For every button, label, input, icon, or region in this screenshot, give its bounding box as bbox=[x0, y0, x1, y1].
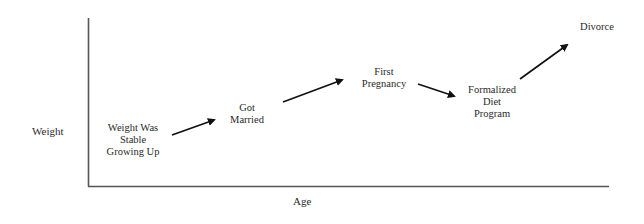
diagram-graphics bbox=[0, 0, 644, 224]
event-label-married: Got Married bbox=[222, 102, 272, 126]
diagram-canvas: Weight Age Weight Was Stable Growing Up … bbox=[0, 0, 644, 224]
event-label-pregnancy: First Pregnancy bbox=[354, 66, 414, 90]
event-label-divorce: Divorce bbox=[572, 21, 622, 33]
y-axis-label: Weight bbox=[32, 125, 64, 138]
event-label-stable: Weight Was Stable Growing Up bbox=[96, 122, 170, 158]
arrow-stable-to-married bbox=[172, 120, 214, 135]
arrow-pregnancy-to-diet bbox=[418, 84, 454, 96]
event-label-diet: Formalized Diet Program bbox=[463, 84, 521, 120]
x-axis-label: Age bbox=[293, 195, 311, 208]
arrow-married-to-pregnancy bbox=[283, 80, 342, 102]
arrow-diet-to-divorce bbox=[520, 45, 567, 79]
